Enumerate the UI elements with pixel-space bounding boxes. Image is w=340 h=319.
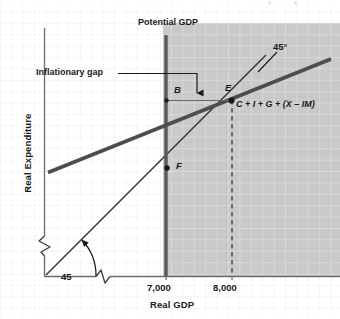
data-point-b [164, 98, 168, 102]
economics-chart-canvas [0, 0, 340, 319]
point-e-label: E [225, 83, 231, 93]
point-b-label: B [174, 85, 181, 95]
inflationary-gap-label: Inflationary gap [36, 68, 103, 78]
x-tick-label-8000: 8,000 [213, 283, 237, 293]
forty-five-angle-label: 45 [61, 272, 72, 282]
data-point-f [164, 165, 169, 170]
point-f-label: F [176, 161, 182, 171]
potential-gdp-label: Potential GDP [137, 17, 199, 27]
forty-five-degree-label: 45° [273, 42, 287, 52]
y-axis-title: Real Expenditure [23, 103, 33, 203]
aggregate-expenditure-label: C + I + G + (X – IM) [236, 100, 315, 110]
x-axis-title: Real GDP [150, 300, 194, 310]
x-tick-label-7000: 7,000 [147, 283, 171, 293]
data-point-e [228, 97, 234, 103]
shaded-region-above-potential [163, 23, 340, 276]
chart-figure: Real Expenditure Real GDP 7,000 8,000 Po… [0, 0, 340, 319]
